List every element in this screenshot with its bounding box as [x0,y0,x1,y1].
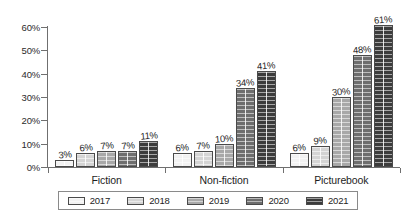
y-axis-tick-label: 40% [2,68,40,79]
x-axis-tick [283,168,284,173]
plot-area: 3%6%7%7%11%6%7%10%34%41%6%9%30%48%61% [48,27,400,167]
y-axis-tick-label: 20% [2,115,40,126]
legend-swatch [246,197,263,205]
bar-slot: 61% [374,27,393,167]
y-axis-tick [41,74,47,75]
bar-group: 6%9%30%48%61% [290,27,393,167]
bar-value-label: 7% [121,139,135,151]
legend-item[interactable]: 2017 [68,195,110,206]
y-axis-tick-label: 30% [2,92,40,103]
bar-slot: 48% [353,27,372,167]
x-axis-line [48,167,400,168]
bar-value-label: 9% [313,134,327,146]
bar-slot: 7% [97,27,116,167]
y-axis-tick-label: 60% [2,22,40,33]
legend-swatch [306,197,323,205]
bar-value-label: 3% [58,148,72,160]
legend-label: 2017 [90,195,110,206]
bar-value-label: 6% [79,141,93,153]
bar-slot: 7% [194,27,213,167]
y-axis-tick-label: 50% [2,45,40,56]
legend-label: 2019 [209,195,229,206]
bar-slot: 41% [257,27,276,167]
bar-value-label: 30% [332,85,351,98]
legend-swatch [187,197,204,205]
bar[interactable]: 11% [139,141,158,167]
bar-value-label: 61% [374,13,393,26]
bar-slot: 34% [236,27,255,167]
y-axis-tick [41,50,47,51]
bar-value-label: 10% [214,132,233,145]
bar[interactable]: 61% [374,25,393,167]
y-axis-tick [41,120,47,121]
chart-legend: 20172018201920202021 [58,191,358,210]
bar[interactable]: 41% [257,71,276,167]
bar-group: 6%7%10%34%41% [173,27,276,167]
bar[interactable]: 6% [76,153,95,167]
legend-swatch [68,197,85,205]
bar-value-label: 6% [175,141,189,153]
legend-label: 2020 [268,195,288,206]
bar[interactable]: 9% [311,146,330,167]
bar[interactable]: 3% [55,160,74,167]
x-axis-tick [48,168,49,173]
legend-item[interactable]: 2019 [187,195,229,206]
y-axis-tick-label: 0% [2,162,40,173]
bar[interactable]: 10% [215,144,234,167]
bar-group: 3%6%7%7%11% [55,27,158,167]
y-axis-tick-label: 10% [2,138,40,149]
bar[interactable]: 6% [173,153,192,167]
legend-label: 2021 [328,195,348,206]
bar[interactable]: 7% [118,151,137,167]
legend-label: 2018 [149,195,169,206]
x-axis-category-label: Fiction [48,174,165,186]
bar-slot: 30% [332,27,351,167]
bar[interactable]: 7% [97,151,116,167]
bar-value-label: 48% [353,43,372,56]
legend-item[interactable]: 2020 [246,195,288,206]
bar-slot: 6% [76,27,95,167]
bar[interactable]: 34% [236,88,255,167]
legend-swatch [127,197,144,205]
legend-item[interactable]: 2021 [306,195,348,206]
bar-slot: 7% [118,27,137,167]
bar-slot: 9% [311,27,330,167]
bar-value-label: 7% [100,139,114,151]
x-axis-tick [400,168,401,173]
bar-value-label: 41% [256,60,275,73]
x-axis-category-label: Picturebook [283,174,400,186]
bar-chart: 0%10%20%30%40%50%60% 3%6%7%7%11%6%7%10%3… [0,0,417,219]
bar-slot: 11% [139,27,158,167]
bar-value-label: 11% [139,130,157,142]
bar-slot: 6% [173,27,192,167]
y-axis-tick [41,167,47,168]
y-axis-tick [41,144,47,145]
legend-item[interactable]: 2018 [127,195,169,206]
bar-value-label: 7% [196,139,210,151]
bar-value-label: 6% [292,141,306,153]
bar-value-label: 34% [235,76,254,89]
x-axis-tick [165,168,166,173]
bar-slot: 3% [55,27,74,167]
bar-slot: 10% [215,27,234,167]
x-axis-category-label: Non-fiction [165,174,282,186]
bar-slot: 6% [290,27,309,167]
y-axis-tick [41,97,47,98]
bar[interactable]: 48% [353,55,372,167]
bar[interactable]: 30% [332,97,351,167]
bar[interactable]: 7% [194,151,213,167]
bar[interactable]: 6% [290,153,309,167]
y-axis-tick [41,27,47,28]
